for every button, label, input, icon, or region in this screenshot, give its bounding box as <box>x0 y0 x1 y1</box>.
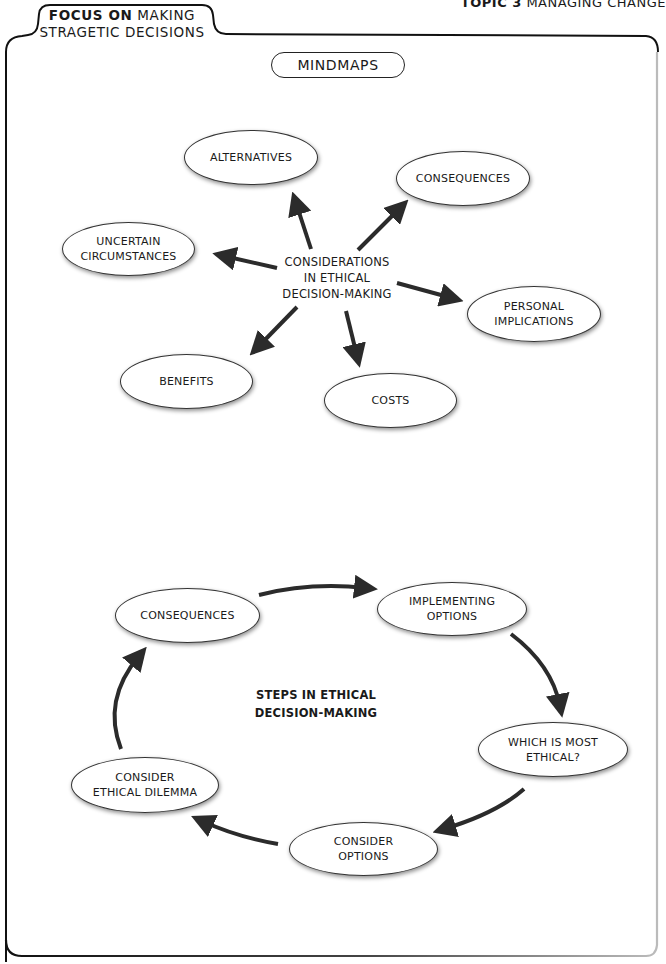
topic-header: TOPIC 3 MANAGING CHANGE <box>461 0 666 10</box>
topic-title: MANAGING CHANGE <box>526 0 666 10</box>
node-step-consider-ethical-dilemma: CONSIDERETHICAL DILEMMA <box>71 757 219 813</box>
node-personal-implications: PERSONALIMPLICATIONS <box>467 286 601 342</box>
node-step-consequences: CONSEQUENCES <box>115 588 260 643</box>
section-title-pill: MINDMAPS <box>271 52 405 78</box>
node-step-which-is-most-ethical: WHICH IS MOSTETHICAL? <box>478 722 628 777</box>
node-benefits: BENEFITS <box>120 354 253 409</box>
mindmap1-center-label: CONSIDERATIONS IN ETHICAL DECISION-MAKIN… <box>262 254 412 302</box>
focus-topic-line1: MAKING <box>137 7 195 23</box>
focus-on-label: FOCUS ON <box>49 7 133 23</box>
node-step-implementing-options: IMPLEMENTINGOPTIONS <box>377 582 527 636</box>
node-costs: COSTS <box>324 373 457 428</box>
node-alternatives: ALTERNATIVES <box>184 130 318 185</box>
focus-tab-label: FOCUS ON MAKING STRAGETIC DECISIONS <box>32 7 212 41</box>
node-consequences: CONSEQUENCES <box>396 151 530 206</box>
focus-topic-line2: STRAGETIC DECISIONS <box>32 24 212 41</box>
node-step-consider-options: CONSIDEROPTIONS <box>289 822 438 876</box>
node-uncertain-circumstances: UNCERTAINCIRCUMSTANCES <box>62 222 195 276</box>
topic-number: TOPIC 3 <box>461 0 522 10</box>
mindmap2-center-label: STEPS IN ETHICAL DECISION-MAKING <box>236 686 396 722</box>
